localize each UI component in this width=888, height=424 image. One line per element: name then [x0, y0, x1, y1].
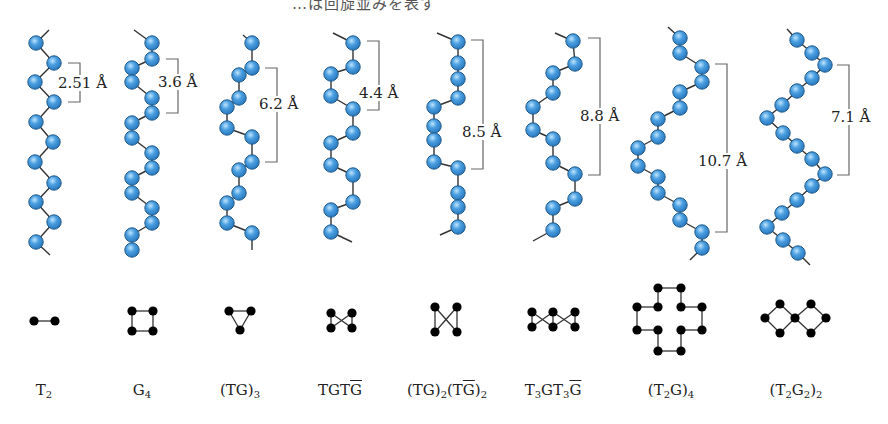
projection-(T2G)4 — [632, 283, 706, 355]
projection-node-icon — [632, 302, 641, 311]
carbon-atom-icon — [566, 34, 580, 48]
projection-node-icon — [760, 313, 769, 322]
carbon-atom-icon — [673, 46, 687, 60]
carbon-atom-icon — [568, 167, 582, 181]
repeat-distance-label: 10.7 Å — [697, 153, 748, 169]
repeat-distance-label: 3.6 Å — [157, 74, 198, 90]
carbon-atom-icon — [46, 135, 60, 149]
conformation-label: (TG)2(TG)2 — [407, 381, 487, 400]
carbon-atom-icon — [546, 86, 560, 100]
repeat-bracket — [715, 64, 727, 232]
carbon-atom-icon — [145, 146, 159, 160]
carbon-atom-icon — [546, 132, 560, 146]
projection-node-icon — [676, 346, 685, 355]
carbon-atom-icon — [760, 111, 774, 125]
projection-node-icon — [430, 302, 439, 311]
projection-node-icon — [653, 325, 662, 334]
carbon-atom-icon — [29, 36, 43, 50]
carbon-atom-icon — [805, 152, 819, 166]
carbon-atom-icon — [695, 75, 709, 89]
carbon-atom-icon — [125, 61, 139, 75]
carbon-atom-icon — [245, 130, 259, 144]
chain-diagrams — [0, 0, 888, 424]
projection-node-icon — [29, 316, 38, 325]
carbon-atom-icon — [125, 243, 139, 257]
repeat-distance-label: 6.2 Å — [258, 96, 299, 112]
carbon-atom-icon — [145, 36, 159, 50]
projection-node-icon — [548, 307, 557, 316]
carbon-atom-icon — [324, 158, 338, 172]
carbon-atom-icon — [526, 100, 540, 114]
repeat-distance-label: 7.1 Å — [830, 109, 871, 125]
carbon-atom-icon — [346, 60, 360, 74]
projection-node-icon — [653, 283, 662, 292]
projection-node-icon — [676, 283, 685, 292]
carbon-atom-icon — [805, 179, 819, 193]
carbon-atom-icon — [125, 116, 139, 130]
projection-node-icon — [127, 326, 136, 335]
carbon-atom-icon — [232, 186, 246, 200]
carbon-atom-icon — [673, 101, 687, 115]
chain-(TG)3 — [220, 35, 277, 250]
conformation-label: T3GT3G — [525, 381, 582, 400]
carbon-atom-icon — [427, 133, 441, 147]
projection-node-icon — [224, 306, 233, 315]
carbon-atom-icon — [673, 31, 687, 45]
projection-node-icon — [527, 307, 536, 316]
carbon-atom-icon — [324, 89, 338, 103]
carbon-atom-icon — [651, 186, 665, 200]
carbon-atom-icon — [47, 215, 61, 229]
carbon-atom-icon — [232, 163, 246, 177]
chain-(T2G2)2 — [760, 29, 849, 265]
carbon-atom-icon — [451, 56, 465, 70]
projection-(TG)3 — [224, 306, 255, 334]
carbon-atom-icon — [324, 203, 338, 217]
carbon-atom-icon — [427, 155, 441, 169]
carbon-atom-icon — [546, 223, 560, 237]
carbon-atom-icon — [673, 85, 687, 99]
repeat-distance-label: 4.4 Å — [358, 85, 399, 101]
carbon-atom-icon — [47, 95, 61, 109]
projection-TGTG-bar — [326, 308, 356, 332]
carbon-atom-icon — [245, 226, 259, 240]
projection-node-icon — [697, 302, 706, 311]
carbon-atom-icon — [427, 119, 441, 133]
carbon-atom-icon — [546, 201, 560, 215]
projection-node-icon — [527, 322, 536, 331]
carbon-atom-icon — [125, 75, 139, 89]
projection-T2 — [29, 316, 59, 325]
carbon-atom-icon — [790, 33, 804, 47]
carbon-atom-icon — [125, 171, 139, 185]
carbon-atom-icon — [28, 75, 42, 89]
chain-G4 — [125, 30, 178, 257]
projection-node-icon — [697, 325, 706, 334]
conformation-label: (T2G2)2 — [770, 381, 823, 400]
carbon-atom-icon — [791, 246, 805, 260]
projection-(T2G2)2 — [760, 299, 830, 337]
carbon-atom-icon — [145, 216, 159, 230]
repeat-bracket — [265, 68, 277, 162]
carbon-atom-icon — [145, 106, 159, 120]
carbon-atom-icon — [346, 195, 360, 209]
carbon-atom-icon — [818, 167, 832, 181]
carbon-atom-icon — [673, 213, 687, 227]
projection-node-icon — [806, 328, 815, 337]
projection-node-icon — [430, 327, 439, 336]
carbon-atom-icon — [346, 36, 360, 50]
projection-node-icon — [452, 302, 461, 311]
carbon-atom-icon — [451, 91, 465, 105]
carbon-atom-icon — [145, 161, 159, 175]
projection-(TG)2(TG-bar)2 — [430, 302, 461, 336]
carbon-atom-icon — [775, 98, 789, 112]
carbon-atom-icon — [245, 61, 259, 75]
carbon-atom-icon — [651, 112, 665, 126]
projection-node-icon — [653, 302, 662, 311]
projection-node-icon — [452, 327, 461, 336]
carbon-atom-icon — [695, 225, 709, 239]
carbon-atom-icon — [695, 241, 709, 255]
carbon-atom-icon — [805, 71, 819, 85]
carbon-atom-icon — [29, 195, 43, 209]
conformation-label: T2 — [36, 381, 52, 400]
carbon-atom-icon — [145, 52, 159, 66]
projection-G4 — [127, 306, 157, 335]
